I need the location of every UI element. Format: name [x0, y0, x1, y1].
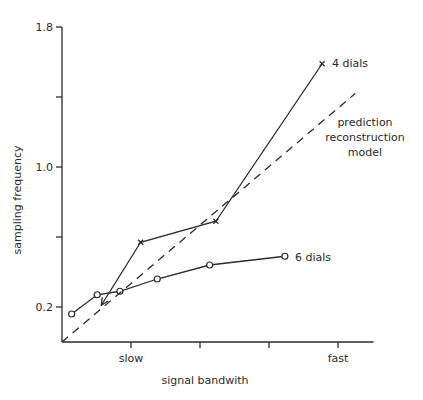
- series-label-6-dials: 6 dials: [295, 251, 331, 264]
- series-4-dials: [101, 61, 324, 305]
- y-axis-label: sampling frequency: [11, 145, 24, 254]
- series-6-dials: [69, 253, 288, 317]
- series-label-prediction-line-1: prediction: [337, 116, 392, 129]
- x-ticks: slowfast: [119, 342, 349, 365]
- series-line-6-dials: [72, 256, 285, 314]
- series-layer: [62, 61, 355, 342]
- series-label-4-dials: 4 dials: [332, 57, 368, 70]
- axes: [62, 27, 374, 342]
- y-tick-label: 1.0: [36, 161, 54, 174]
- series-label-prediction-line-3: model: [348, 146, 382, 159]
- data-point: [282, 253, 288, 259]
- x-axis-label: signal bandwith: [161, 374, 248, 387]
- data-point: [207, 262, 213, 268]
- series-line-4-dials: [101, 64, 322, 306]
- data-point: [69, 311, 75, 317]
- data-point: [94, 292, 100, 298]
- y-tick-label: 0.2: [36, 301, 54, 314]
- data-point: [154, 276, 160, 282]
- x-tick-label: fast: [328, 352, 349, 365]
- y-tick-label: 1.8: [36, 21, 54, 34]
- series-label-prediction-line-2: reconstruction: [325, 131, 404, 144]
- x-tick-label: slow: [119, 352, 144, 365]
- series-line-prediction-reconstruction-model: [62, 94, 355, 343]
- series-prediction-reconstruction-model: [62, 94, 355, 343]
- chart: 0.21.01.8 slowfast sampling frequency si…: [0, 0, 423, 400]
- labels: sampling frequency signal bandwith 4 dia…: [11, 57, 405, 387]
- y-ticks: 0.21.01.8: [36, 21, 63, 314]
- data-point: [320, 61, 325, 66]
